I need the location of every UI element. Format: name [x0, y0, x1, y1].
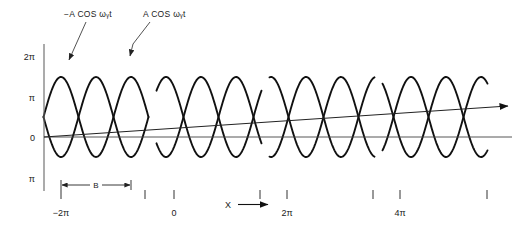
y-axis-tick-label: π — [29, 93, 35, 103]
y-axis-tick-label: 0 — [30, 133, 35, 143]
callout-label-right: A COS ωᵧt — [143, 9, 186, 19]
wave-curve — [44, 77, 149, 157]
callout-label-left: −A COS ωᵧt — [64, 9, 112, 19]
x-axis-tick-label: 0 — [171, 208, 176, 218]
diagonal-ray-line — [44, 106, 508, 137]
x-axis-ticks: −2π02π4π — [53, 190, 487, 218]
wave-packets — [44, 77, 488, 157]
wave-curve — [44, 77, 149, 157]
figure-root: 2ππ0π −2π02π4π B −A COS ωᵧt A COS ωᵧt X — [0, 0, 522, 230]
y-axis-ticks: 2ππ0π — [24, 52, 35, 184]
wave-curve — [270, 77, 375, 157]
x-axis-label: X — [225, 200, 231, 210]
callout-leader-left — [69, 22, 86, 60]
x-axis-tick-label: 2π — [281, 208, 292, 218]
y-axis-tick-label: π — [29, 174, 35, 184]
dimension-label: B — [93, 181, 98, 190]
callout-right: A COS ωᵧt — [130, 9, 186, 56]
dimension-marker-b: B — [61, 180, 131, 191]
wave-diagram: 2ππ0π −2π02π4π B −A COS ωᵧt A COS ωᵧt X — [0, 0, 522, 230]
callout-leader-right — [130, 22, 150, 56]
x-axis-tick-label: −2π — [53, 208, 69, 218]
y-axis-tick-label: 2π — [24, 52, 35, 62]
x-axis-tick-label: 4π — [394, 208, 405, 218]
callout-left: −A COS ωᵧt — [64, 9, 112, 60]
x-axis-name-group: X — [225, 200, 268, 210]
